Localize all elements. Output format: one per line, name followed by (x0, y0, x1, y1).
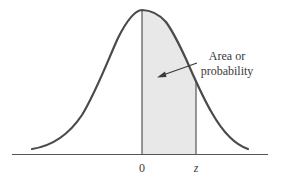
shaded-area (142, 10, 196, 154)
axis-label-z: z (193, 161, 199, 175)
bell-curve (32, 10, 248, 149)
axis-label-zero: 0 (139, 161, 145, 175)
annotation-line-1: Area or (209, 49, 245, 63)
normal-distribution-diagram: Area or probability 0 z (0, 0, 281, 185)
annotation-line-2: probability (201, 64, 254, 78)
